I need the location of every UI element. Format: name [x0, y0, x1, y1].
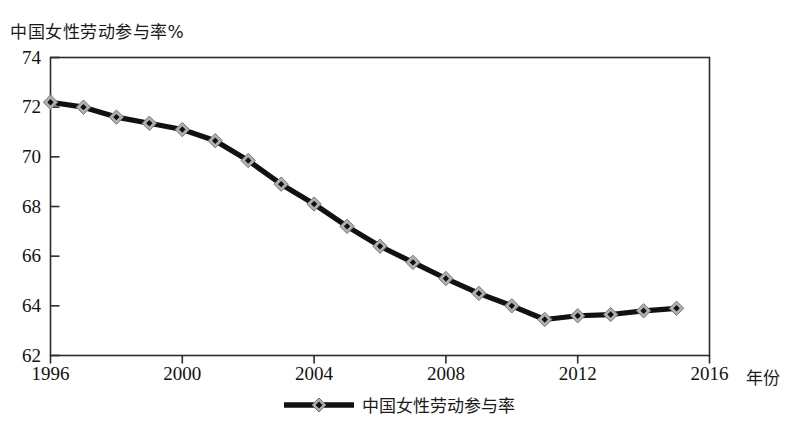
y-axis-tick-label: 62 — [5, 346, 41, 365]
y-axis-tick-label: 68 — [5, 197, 41, 216]
plot-area — [0, 0, 796, 423]
y-axis-tick-label: 64 — [5, 296, 41, 315]
x-axis-tick-label: 2016 — [675, 364, 745, 383]
x-axis-tick-label: 1996 — [16, 364, 86, 383]
y-axis-tick-label: 74 — [5, 48, 41, 67]
chart-container: 中国女性劳动参与率% 年份 62646668707274 19962000200… — [0, 0, 796, 423]
y-axis-tick-label: 66 — [5, 246, 41, 265]
x-axis-tick-label: 2000 — [147, 364, 217, 383]
x-axis-tick-label: 2008 — [411, 364, 481, 383]
legend-marker-icon — [282, 397, 356, 413]
x-axis-ticks — [51, 356, 710, 364]
y-axis-tick-label: 70 — [5, 147, 41, 166]
chart-legend: 中国女性劳动参与率 — [0, 392, 796, 417]
legend-entry-label: 中国女性劳动参与率 — [362, 392, 515, 417]
x-axis-tick-label: 2012 — [543, 364, 613, 383]
x-axis-tick-label: 2004 — [279, 364, 349, 383]
y-axis-tick-label: 72 — [5, 97, 41, 116]
